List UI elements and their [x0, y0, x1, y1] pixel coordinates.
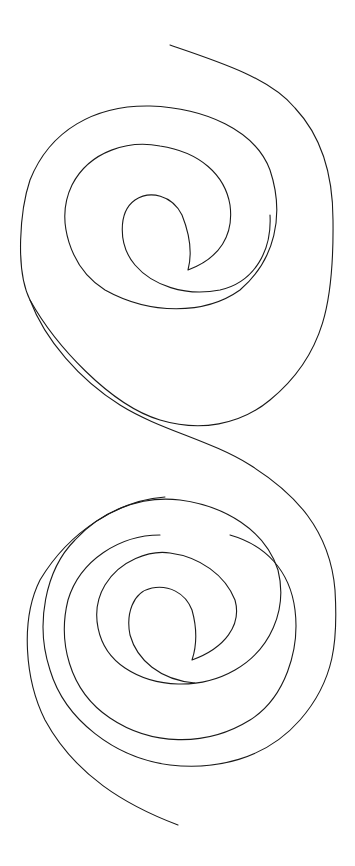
- canvas-background: [0, 0, 355, 866]
- double-spiral-drawing: [0, 0, 355, 866]
